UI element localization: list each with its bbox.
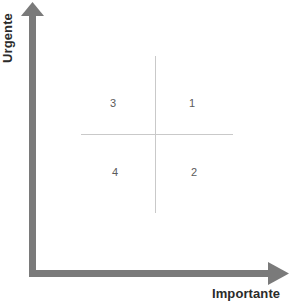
axes-group <box>0 0 293 306</box>
quadrant-label-2: 2 <box>187 166 201 178</box>
quadrant-label-1: 1 <box>185 97 199 109</box>
quadrant-divider-horizontal <box>81 134 233 135</box>
up-arrow-icon <box>21 2 44 16</box>
quadrant-diagram: Urgente Importante 1 2 3 4 <box>0 0 293 306</box>
vertical-axis-shaft <box>29 13 36 277</box>
quadrant-label-4: 4 <box>108 166 122 178</box>
quadrant-label-3: 3 <box>106 97 120 109</box>
right-arrow-icon <box>268 262 289 285</box>
horizontal-axis-shaft <box>29 270 272 277</box>
horizontal-axis-label: Importante <box>212 287 280 301</box>
vertical-axis-label: Urgente <box>1 13 15 63</box>
